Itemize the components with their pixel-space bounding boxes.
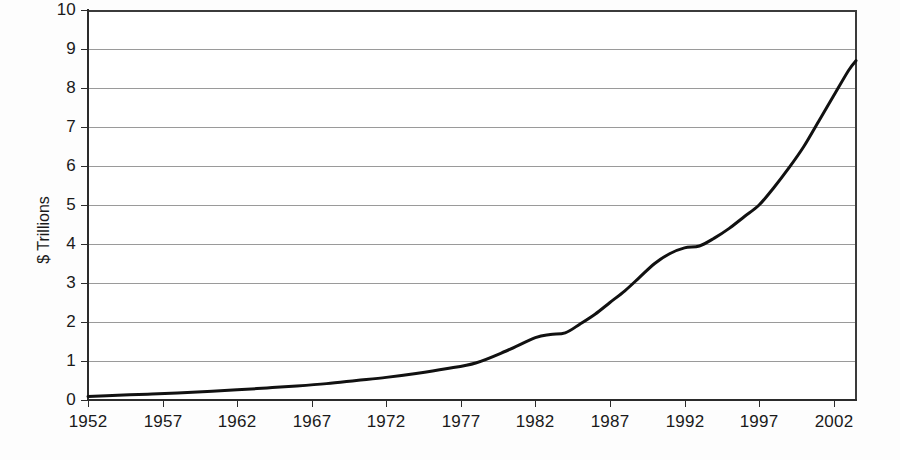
x-tick-label-1957: 1957 — [128, 412, 198, 432]
x-tick-label-1962: 1962 — [202, 412, 272, 432]
x-tick-label-1952: 1952 — [53, 412, 123, 432]
y-tick-label-10: 10 — [2, 0, 76, 20]
y-tick-label-4: 4 — [2, 234, 76, 254]
gridline-y-3 — [88, 283, 856, 284]
gridline-y-7 — [88, 127, 856, 128]
y-tick-label-5: 5 — [2, 195, 76, 215]
x-axis-line — [88, 399, 857, 401]
gridline-y-8 — [88, 88, 856, 89]
y-axis-line — [87, 9, 89, 401]
x-tick-label-1992: 1992 — [650, 412, 720, 432]
x-tick-label-1982: 1982 — [500, 412, 570, 432]
x-tick-label-1977: 1977 — [426, 412, 496, 432]
y-tick-label-3: 3 — [2, 273, 76, 293]
gridline-y-1 — [88, 361, 856, 362]
gridline-y-4 — [88, 244, 856, 245]
x-tick-1962 — [237, 400, 238, 407]
y-tick-label-8: 8 — [2, 78, 76, 98]
x-tick-label-1967: 1967 — [277, 412, 347, 432]
plot-border-top — [88, 10, 857, 12]
y-tick-label-0: 0 — [2, 390, 76, 410]
x-tick-1967 — [312, 400, 313, 407]
x-tick-label-2002: 2002 — [799, 412, 869, 432]
x-tick-2002 — [834, 400, 835, 407]
x-tick-1982 — [535, 400, 536, 407]
x-tick-label-1997: 1997 — [724, 412, 794, 432]
y-tick-label-9: 9 — [2, 39, 76, 59]
gridline-y-2 — [88, 322, 856, 323]
x-tick-1992 — [685, 400, 686, 407]
plot-border-right — [855, 10, 857, 401]
x-tick-1952 — [88, 400, 89, 407]
y-tick-label-2: 2 — [2, 312, 76, 332]
x-tick-1957 — [163, 400, 164, 407]
chart-container: $ Trillions 012345678910 195219571962196… — [0, 0, 900, 460]
gridline-y-9 — [88, 49, 856, 50]
x-tick-label-1987: 1987 — [575, 412, 645, 432]
y-tick-label-1: 1 — [2, 351, 76, 371]
gridline-y-6 — [88, 166, 856, 167]
x-tick-1987 — [610, 400, 611, 407]
x-tick-1997 — [759, 400, 760, 407]
x-tick-label-1972: 1972 — [351, 412, 421, 432]
x-tick-1977 — [461, 400, 462, 407]
y-tick-label-7: 7 — [2, 117, 76, 137]
gridline-y-5 — [88, 205, 856, 206]
y-tick-label-6: 6 — [2, 156, 76, 176]
x-tick-1972 — [386, 400, 387, 407]
